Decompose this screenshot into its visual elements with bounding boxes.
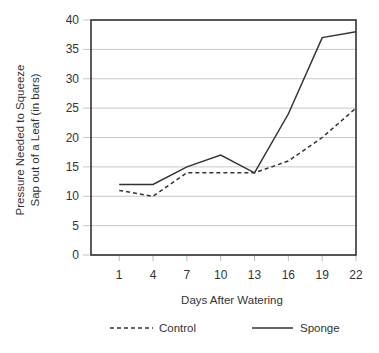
- y-tick-label: 5: [72, 219, 79, 233]
- x-tick-label: 7: [184, 268, 191, 282]
- y-tick-label: 25: [66, 101, 80, 115]
- x-tick-label: 4: [150, 268, 157, 282]
- y-tick-label: 30: [66, 72, 80, 86]
- line-chart: 0510152025303540 1471013161922 Pressure …: [0, 0, 379, 353]
- x-axis-ticks: 1471013161922: [116, 255, 363, 282]
- legend: Control Sponge: [110, 322, 340, 334]
- y-tick-label: 0: [72, 248, 79, 262]
- x-tick-label: 13: [248, 268, 262, 282]
- y-axis-ticks: 0510152025303540: [66, 13, 80, 262]
- y-tick-label: 20: [66, 131, 80, 145]
- x-tick-label: 1: [116, 268, 123, 282]
- y-axis-title-line1: Pressure Needed to Squeeze: [14, 65, 26, 216]
- x-tick-label: 10: [214, 268, 228, 282]
- x-tick-label: 16: [282, 268, 296, 282]
- x-tick-label: 22: [349, 268, 363, 282]
- y-tick-label: 10: [66, 189, 80, 203]
- x-axis-title: Days After Watering: [181, 294, 283, 306]
- legend-sponge-label: Sponge: [300, 322, 340, 334]
- y-tick-label: 35: [66, 42, 80, 56]
- y-tick-label: 15: [66, 160, 80, 174]
- y-tick-label: 40: [66, 13, 80, 27]
- y-axis-title: Pressure Needed to Squeeze Sap out of a …: [14, 65, 41, 216]
- legend-control-label: Control: [159, 322, 196, 334]
- x-tick-label: 19: [315, 268, 329, 282]
- y-axis-title-line2: Sap out of a Leaf (in bars): [29, 73, 41, 206]
